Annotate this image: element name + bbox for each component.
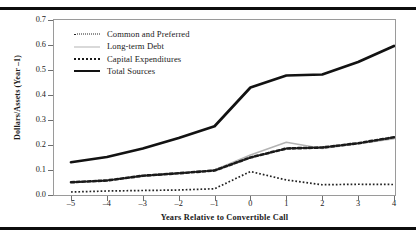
x-tick-mark bbox=[286, 196, 287, 201]
legend-label: Total Sources bbox=[107, 67, 155, 76]
x-tick-label: –2 bbox=[168, 200, 190, 208]
x-tick-mark bbox=[107, 196, 108, 201]
x-tick-mark bbox=[143, 196, 144, 201]
y-tick-label: 0.0 bbox=[16, 191, 46, 199]
x-tick-label: 2 bbox=[311, 200, 333, 208]
x-tick-label: 0 bbox=[239, 200, 261, 208]
y-tick-label: 0.1 bbox=[16, 166, 46, 174]
x-tick-label: 1 bbox=[275, 200, 297, 208]
y-tick-label: 0.5 bbox=[16, 66, 46, 74]
y-tick-label: 0.7 bbox=[16, 16, 46, 24]
legend-line-swatch bbox=[74, 66, 100, 76]
x-tick-label: –3 bbox=[132, 200, 154, 208]
y-tick-label: 0.2 bbox=[16, 141, 46, 149]
x-tick-label: 3 bbox=[347, 200, 369, 208]
legend-line-swatch bbox=[74, 42, 100, 52]
legend-item: Long-term Debt bbox=[74, 40, 264, 52]
x-tick-mark bbox=[358, 196, 359, 201]
legend-item: Capital Expenditures bbox=[74, 53, 264, 65]
legend-label: Long-term Debt bbox=[107, 42, 164, 51]
x-tick-label: –1 bbox=[204, 200, 226, 208]
figure-container: Dollars/Assets (Year –1) 0.00.10.20.30.4… bbox=[0, 0, 416, 236]
y-tick-label: 0.3 bbox=[16, 116, 46, 124]
x-tick-mark bbox=[394, 196, 395, 201]
legend-label: Capital Expenditures bbox=[107, 55, 181, 64]
x-tick-mark bbox=[322, 196, 323, 201]
x-tick-label: 4 bbox=[383, 200, 405, 208]
chart-legend: Common and PreferredLong-term DebtCapita… bbox=[74, 28, 264, 78]
legend-line-swatch bbox=[74, 54, 100, 64]
legend-item: Common and Preferred bbox=[74, 28, 264, 40]
series-line bbox=[71, 172, 394, 193]
x-tick-mark bbox=[179, 196, 180, 201]
legend-label: Common and Preferred bbox=[107, 30, 190, 39]
x-tick-mark bbox=[250, 196, 251, 201]
x-tick-mark bbox=[215, 196, 216, 201]
y-tick-label: 0.4 bbox=[16, 91, 46, 99]
x-tick-mark bbox=[71, 196, 72, 201]
y-tick-label: 0.6 bbox=[16, 41, 46, 49]
x-axis-title: Years Relative to Convertible Call bbox=[53, 213, 396, 222]
series-line bbox=[71, 137, 394, 182]
legend-item: Total Sources bbox=[74, 65, 264, 77]
x-tick-label: –5 bbox=[60, 200, 82, 208]
legend-line-swatch bbox=[74, 29, 100, 39]
x-tick-label: –4 bbox=[96, 200, 118, 208]
